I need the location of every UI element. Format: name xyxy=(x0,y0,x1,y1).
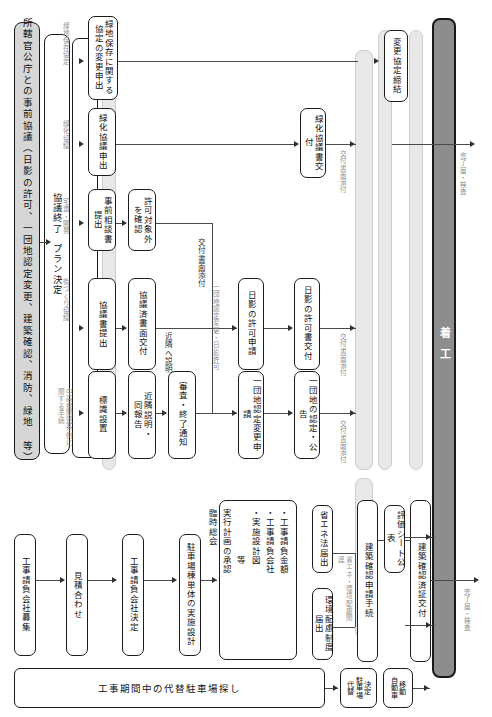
group-item-2: ・実施設計図 xyxy=(249,509,259,565)
arrow-shadow-issue-to-lane xyxy=(350,325,355,331)
line-exempt-right xyxy=(156,223,212,224)
node-submit-consult-doc[interactable]: 協議書提出 xyxy=(88,278,116,370)
node-energy-law-submit[interactable]: 省エネ法届出 xyxy=(312,505,333,573)
group-header: 臨時総会 xyxy=(207,509,217,547)
pillar-start-construction: 着工 xyxy=(432,18,456,678)
node-contractor-recruit[interactable]: 工事請負会社募集 xyxy=(14,534,36,656)
group-box-extraordinary-meeting: ・工事請負金額 ・工事請負会社 ・実施設計図 等 実行計画の承認 臨時総会 xyxy=(219,500,297,660)
lane-confirmation xyxy=(409,30,423,470)
node-green-plan-offer[interactable]: 緑化協議申出 xyxy=(88,108,116,176)
arrow-shadow-apply-to-issue xyxy=(288,325,293,331)
node-confirm-exempt[interactable]: 許可対象外 を確認 xyxy=(128,189,156,251)
node-estate-certify-notice[interactable]: 一団地の認定・公告 xyxy=(294,371,320,459)
arrow-to-estate-apply xyxy=(232,410,237,416)
edge-label-completion-top: 完了届・検査 xyxy=(458,152,465,214)
edge-label-attach-doc-3: 交付書面添付 xyxy=(338,333,345,387)
node-contractor-decide[interactable]: 工事請負会社決定 xyxy=(122,534,144,656)
edge-label-dev-permit: 宅造・開発 xyxy=(61,198,68,244)
pillar-consultation: 所轄官公庁との事前協議（日影の許可、一団地認定変更、建築確認、消防、緑地 等） xyxy=(14,22,40,460)
node-green-plan-doc-issue[interactable]: 緑化協議書交付 xyxy=(300,108,326,178)
arrow-to-dev-permit xyxy=(79,220,84,226)
group-subheader: 実行計画の承認 xyxy=(221,509,231,575)
arrow-quote-to-decide xyxy=(112,577,117,583)
line-env-right xyxy=(333,627,355,628)
arrow-sign-to-neighbor xyxy=(122,410,127,416)
edge-label-green-preserve: 緑地保存協定 xyxy=(61,22,68,88)
line-issue-to-shadow xyxy=(156,328,237,329)
arrow-to-greening xyxy=(79,141,84,147)
arrow-decide-to-parking xyxy=(172,577,177,583)
node-neighbor-explain[interactable]: 近隣説明・ 同報告 xyxy=(128,371,156,459)
node-eval-sheet-publish[interactable]: 評価シート公表 xyxy=(384,505,405,573)
arrow-cert-to-start-lower xyxy=(426,622,431,628)
node-green-preserve-change[interactable]: 緑地保存に関する 協定の変更申出 xyxy=(88,16,118,100)
line-estate-vertical xyxy=(212,328,213,413)
node-shadow-permit-issue[interactable]: 日影の許可書交付 xyxy=(294,278,320,370)
line-green-preserve-to-agreement xyxy=(118,61,358,62)
edge-label-midrise-ordinance: 中高層関連条例に 関する手続 xyxy=(56,388,71,460)
node-building-confirm-procedure[interactable]: 建築確認申請手続 xyxy=(357,500,378,662)
arrow-cert-to-start-upper xyxy=(426,534,431,540)
node-review-end-notice[interactable]: 審査・終了通知 xyxy=(168,371,196,459)
edge-label-energy-env-related: 省エネ・環境配慮関連 xyxy=(336,556,351,626)
line-review-to-estate xyxy=(196,413,237,414)
arrow-greening-to-doc xyxy=(294,141,299,147)
arrow-parking-search-to-decide xyxy=(333,685,338,691)
arrow-consult-to-plan xyxy=(46,239,51,245)
line-bottom-completion xyxy=(431,580,477,581)
group-item-1: ・工事請負会社 xyxy=(264,509,274,575)
arrow-vehicle-to-start xyxy=(424,685,429,691)
line-top-completion xyxy=(392,144,472,145)
group-item-0: ・工事請負金額 xyxy=(278,509,288,575)
node-quote-compare[interactable]: 見積合わせ xyxy=(66,534,88,656)
arrow-to-green-preserve xyxy=(79,58,84,64)
arrow-to-shadow-permit xyxy=(232,325,237,331)
lane-certificate xyxy=(355,50,373,470)
node-alt-parking-decide[interactable]: 決定 駐車場 代替 xyxy=(340,668,377,708)
node-issue-consulted-doc[interactable]: 協議済書面交付 xyxy=(128,278,156,370)
line-energy-merge xyxy=(355,553,356,627)
flowchart-canvas: 所轄官公庁との事前協議（日影の許可、一団地認定変更、建築確認、消防、緑地 等） … xyxy=(0,0,492,717)
arrow-green-doc-to-lane xyxy=(350,141,355,147)
arrow-neighbor-to-review xyxy=(162,410,167,416)
edge-label-town-plan: 街づくり協議 xyxy=(61,278,68,340)
arrow-estate-notice-to-lane xyxy=(350,410,355,416)
edge-label-attach-doc-1: 交付書面添付 xyxy=(338,150,345,204)
arrow-submit-to-issue xyxy=(122,325,127,331)
node-pre-consult-doc[interactable]: 事前相談書 提出 xyxy=(88,189,116,251)
arrow-parking-to-group xyxy=(212,577,217,583)
edge-label-attach-doc-2: 交付書面添付 xyxy=(196,238,204,302)
group-item-3: 等 xyxy=(235,509,245,565)
arrow-recruit-to-quote xyxy=(60,577,65,583)
bar-alt-parking-search[interactable]: 工事期間中の代替駐車場探し xyxy=(14,668,325,708)
arrow-estate-apply-to-notice xyxy=(288,410,293,416)
line-greening-to-doc xyxy=(116,144,296,145)
arrow-to-town-plan xyxy=(79,325,84,331)
node-vehicle-move[interactable]: 移動 自動車 xyxy=(383,668,413,708)
node-parking-design[interactable]: 駐車場棟単体の実施設計 xyxy=(179,534,201,656)
node-change-agreement-conclude[interactable]: 変更協定締結 xyxy=(384,30,408,102)
edge-label-completion-bottom: 完了届・検査 xyxy=(462,588,469,650)
edge-label-greening: 緑化協議 xyxy=(61,120,68,166)
node-shadow-permit-apply[interactable]: 日影の許可申請 xyxy=(238,278,264,370)
arrow-green-preserve-to-agreement xyxy=(374,58,379,64)
line-energy-right xyxy=(333,553,355,554)
arrow-bottom-completion xyxy=(474,577,479,583)
line-confirm-to-eval xyxy=(378,540,384,541)
node-sign-install[interactable]: 標識設置 xyxy=(88,371,116,459)
node-estate-change-apply[interactable]: 一団地認定変更申請 xyxy=(238,371,264,459)
line-eval-to-cert xyxy=(405,540,410,541)
node-env-consideration-submit[interactable]: 環境配慮制度届出 xyxy=(312,588,333,660)
edge-label-attach-doc-4: 交付書面添付 xyxy=(338,420,345,474)
arrow-to-midrise xyxy=(79,410,84,416)
arrow-top-completion xyxy=(470,141,475,147)
arrow-pre-consult-to-exempt xyxy=(122,220,127,226)
node-building-confirm-cert[interactable]: 建築確認済証交付 xyxy=(410,500,431,662)
